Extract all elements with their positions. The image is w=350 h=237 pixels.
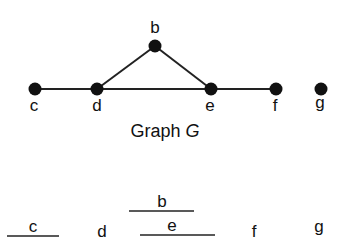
interval-label-d: d [97,222,106,237]
node-f [270,83,283,96]
node-label-c: c [30,96,39,115]
node-b [149,40,162,53]
node-label-e: e [205,96,214,115]
node-label-g: g [315,93,324,112]
interval-label-f: f [252,222,257,237]
edge-b-e [155,46,211,89]
node-label-b: b [150,18,159,37]
node-label-f: f [273,96,278,115]
edge-d-b [97,46,155,89]
interval-lines [7,211,215,236]
graph-diagram: b c d e f g Graph G c d b e f g [0,0,350,237]
node-label-d: d [92,96,101,115]
interval-label-g: g [314,217,323,236]
node-d [91,83,104,96]
interval-label-b: b [157,192,166,211]
node-e [205,83,218,96]
graph-nodes [29,40,328,96]
interval-label-c: c [29,217,38,236]
node-c [29,83,42,96]
graph-caption: Graph G [130,121,199,141]
interval-label-e: e [167,216,176,235]
